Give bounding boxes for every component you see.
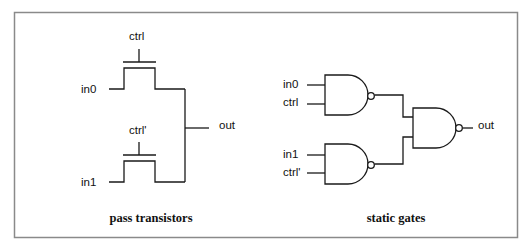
wire-nand1-to-nand3 [375, 95, 414, 117]
nand-gate-1: in0 ctrl [283, 75, 413, 117]
pass-transistor-top: ctrl in0 [81, 30, 185, 95]
label-out: out [219, 119, 236, 131]
nand-body-1 [325, 75, 368, 115]
inverter-bubble-3 [456, 125, 463, 132]
inverter-bubble-2 [368, 162, 375, 169]
label-ctrl: ctrl [129, 30, 144, 42]
nand-gate-2: in1 ctrl' [283, 137, 413, 184]
channel-bottom [109, 161, 185, 182]
label-in1: in1 [283, 148, 298, 160]
label-in0: in0 [81, 83, 96, 95]
label-ctrl: ctrl [283, 96, 298, 108]
channel-top [109, 68, 185, 89]
pass-transistor-bottom: ctrl' in1 [81, 124, 185, 188]
caption-static-gates: static gates [367, 211, 426, 225]
wire-nand2-to-nand3 [375, 137, 414, 164]
static-gates-panel: in0 ctrl in1 ctrl' out static gates [283, 75, 495, 225]
nand-gate-3: out [413, 108, 495, 148]
pass-transistor-panel: ctrl in0 ctrl' in1 out pass transistors [81, 30, 236, 225]
label-ctrl-bar: ctrl' [129, 124, 147, 136]
nand-body-3 [413, 108, 456, 148]
label-ctrl-bar: ctrl' [283, 166, 301, 178]
caption-pass-transistors: pass transistors [110, 211, 193, 225]
label-out: out [478, 119, 495, 131]
label-in0: in0 [283, 78, 298, 90]
label-in1: in1 [81, 176, 96, 188]
multiplexer-diagram: ctrl in0 ctrl' in1 out pass transistors … [0, 0, 530, 251]
inverter-bubble-1 [368, 93, 375, 100]
nand-body-2 [325, 144, 368, 184]
